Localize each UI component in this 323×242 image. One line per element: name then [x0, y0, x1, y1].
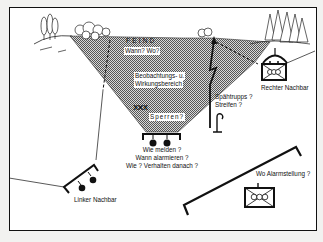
observation-area-label-1: Beobachtungs- u. [134, 72, 185, 80]
bush-icon [198, 28, 212, 37]
enemy-question: Wann? Wo? [124, 47, 160, 55]
alarm-position-label: Wo Alarmstellung ? [256, 170, 310, 178]
report-question-1: Wie melden ? [132, 146, 192, 154]
patrols-label-2: Streifen ? [215, 101, 242, 109]
tactical-diagram [0, 0, 323, 242]
report-question-3: Wie ? Verhalten danach ? [112, 162, 212, 170]
alarm-position-unit-icon [245, 183, 274, 207]
own-position-icon [143, 134, 180, 147]
obstacle-symbol: XXX [133, 104, 148, 112]
right-neighbor-label: Rechter Nachbar [261, 84, 309, 92]
patrols-label-1: Spähtrupps ? [215, 93, 252, 101]
left-neighbor-label: Linker Nachbar [74, 196, 117, 204]
right-neighbor-line [287, 51, 315, 63]
forest-icon [250, 10, 310, 44]
left-outer-line [9, 178, 64, 187]
left-hill [34, 36, 72, 52]
right-neighbor-unit-icon [262, 48, 287, 80]
left-neighbor-line [96, 90, 103, 160]
observation-area-label-2: Wirkungsbereich [134, 80, 183, 88]
enemy-label: FEIND [126, 37, 157, 45]
report-question-2: Wann alarmieren ? [122, 154, 202, 162]
listening-post-icon [213, 114, 223, 132]
left-neighbor-position-icon [64, 165, 98, 193]
obstacles-label: Sperren? [149, 113, 185, 121]
